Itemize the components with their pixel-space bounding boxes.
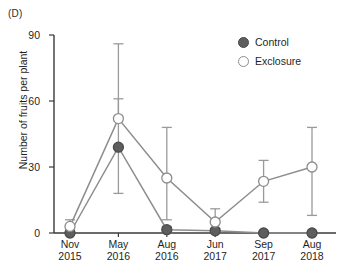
x-tick-month: Nov: [47, 238, 93, 250]
data-point-exclosure: [210, 217, 220, 227]
x-axis-tick-label: Nov2015: [47, 238, 93, 262]
x-axis-tick-label: Aug2016: [144, 238, 190, 262]
x-tick-month: Jun: [192, 238, 238, 250]
x-tick-month: Aug: [289, 238, 335, 250]
data-point-control: [162, 225, 172, 235]
legend-item-exclosure[interactable]: Exclosure: [238, 55, 301, 68]
x-tick-year: 2015: [47, 250, 93, 262]
x-axis-tick-label: Jun2017: [192, 238, 238, 262]
series-line-control: [70, 147, 312, 233]
chart-figure: (D) Number of fruits per plant 0306090 N…: [0, 0, 338, 274]
x-tick-month: Sep: [241, 238, 287, 250]
y-axis-tick-label: 60: [20, 96, 40, 106]
x-tick-year: 2016: [95, 250, 141, 262]
x-tick-year: 2018: [289, 250, 335, 262]
open-circle-icon: [238, 56, 249, 67]
data-point-exclosure: [307, 162, 317, 172]
y-axis-tick-label: 30: [20, 162, 40, 172]
data-point-control: [113, 142, 123, 152]
data-point-exclosure: [162, 173, 172, 183]
y-axis-tick-label: 0: [20, 228, 40, 238]
y-axis-tick-labels: 0306090: [20, 0, 40, 274]
error-bar: [113, 44, 123, 119]
data-point-exclosure: [65, 221, 75, 231]
chart-legend: Control Exclosure: [238, 36, 301, 68]
series-line-exclosure: [70, 119, 312, 227]
x-tick-month: May: [95, 238, 141, 250]
x-axis-tick-label: Aug2018: [289, 238, 335, 262]
legend-label-exclosure: Exclosure: [255, 56, 301, 67]
legend-label-control: Control: [255, 37, 289, 48]
data-point-control: [259, 228, 269, 238]
x-tick-year: 2017: [241, 250, 287, 262]
data-point-exclosure: [113, 114, 123, 124]
y-axis-tick-label: 90: [20, 30, 40, 40]
data-point-control: [307, 228, 317, 238]
x-axis-tick-label: Sep2017: [241, 238, 287, 262]
filled-circle-icon: [238, 37, 249, 48]
x-axis-tick-label: May2016: [95, 238, 141, 262]
x-tick-year: 2016: [144, 250, 190, 262]
x-tick-month: Aug: [144, 238, 190, 250]
x-tick-year: 2017: [192, 250, 238, 262]
data-point-exclosure: [259, 176, 269, 186]
legend-item-control[interactable]: Control: [238, 36, 301, 49]
x-axis-tick-labels: Nov2015May2016Aug2016Jun2017Sep2017Aug20…: [0, 238, 338, 274]
